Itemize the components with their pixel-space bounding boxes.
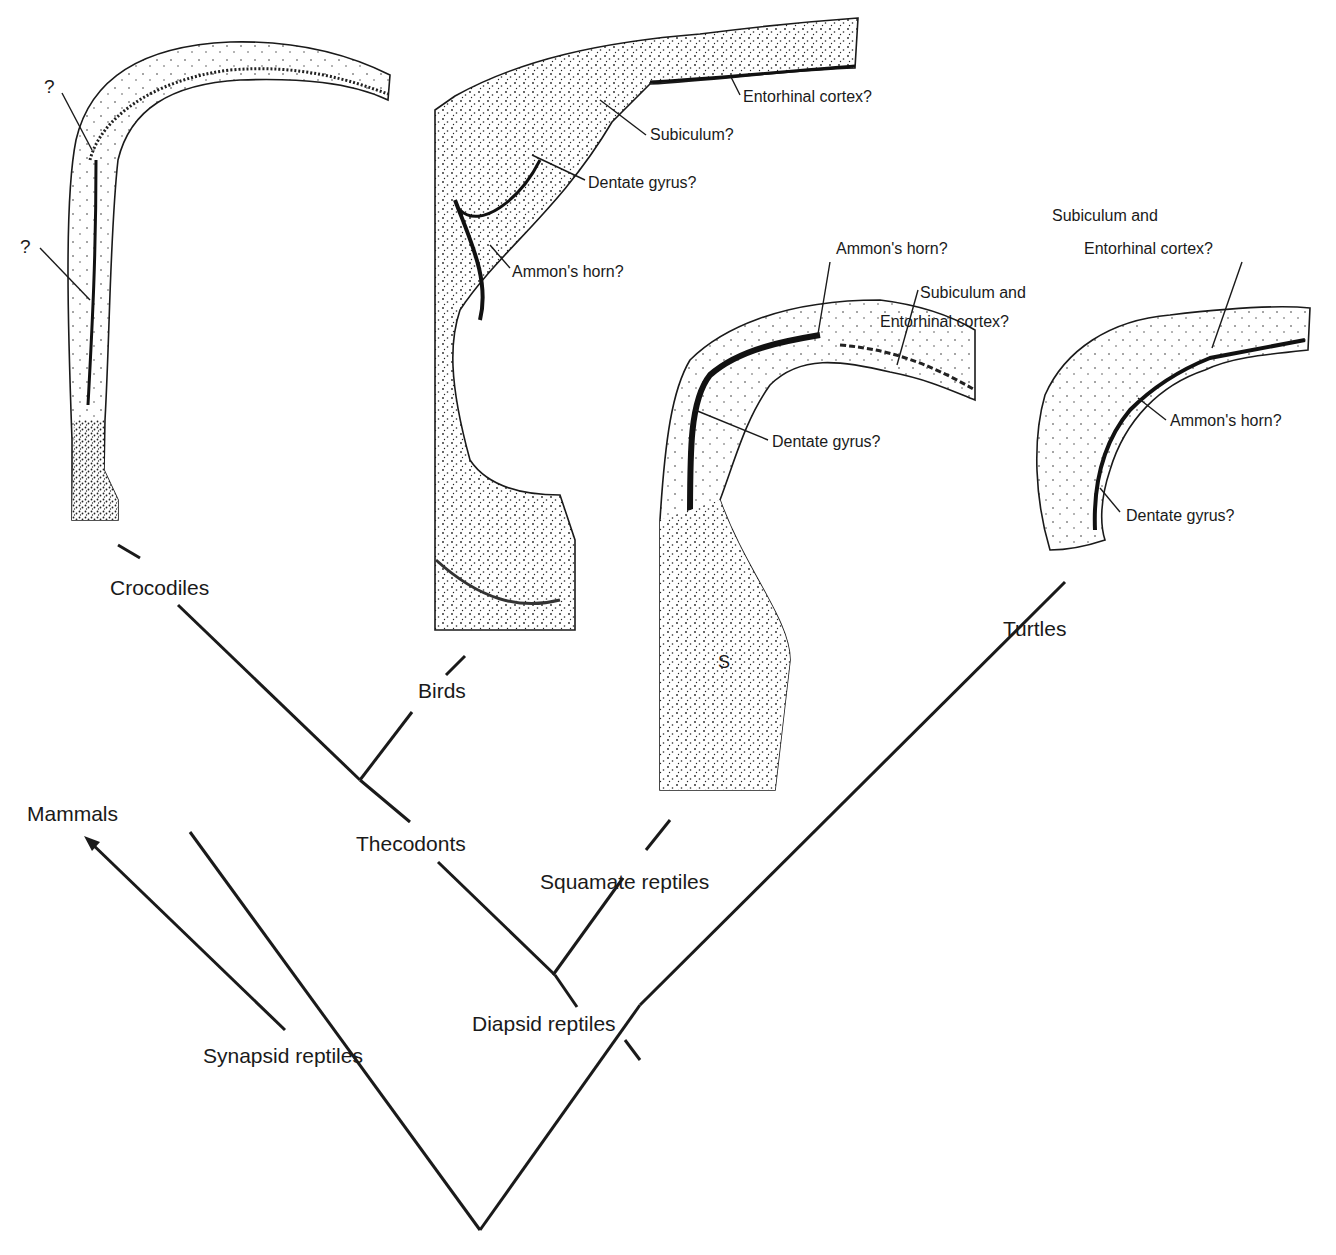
squamate-ammons-horn-label: Ammon's horn? (836, 240, 948, 258)
label-squamate-reptiles: Squamate reptiles (540, 870, 709, 894)
branch-mammals (92, 832, 190, 842)
label-thecodonts: Thecodonts (356, 832, 466, 856)
bird-ammons-horn-label: Ammon's horn? (512, 263, 624, 281)
squamate-dentate-gyrus-label: Dentate gyrus? (772, 433, 881, 451)
crocodile-unknown-label-1: ? (44, 76, 55, 98)
bird-subiculum-label: Subiculum? (650, 126, 734, 144)
label-mammals: Mammals (27, 802, 118, 826)
turtle-entorhinal-cortex-label: Entorhinal cortex? (1084, 240, 1213, 258)
bird-entorhinal-cortex-label: Entorhinal cortex? (743, 88, 872, 106)
bird-dentate-gyrus-label: Dentate gyrus? (588, 174, 697, 192)
squamate-subiculum-label: Subiculum and (920, 284, 1026, 302)
branch-thecodonts (438, 862, 555, 975)
label-turtles: Turtles (1003, 617, 1066, 641)
turtle-dentate-gyrus-label: Dentate gyrus? (1126, 507, 1235, 525)
squamate-entorhinal-cortex-label: Entorhinal cortex? (880, 313, 1009, 331)
label-diapsid-reptiles: Diapsid reptiles (472, 1012, 616, 1036)
squamate-brain-section (660, 262, 975, 790)
squamate-septum-mark: S (718, 652, 730, 673)
branch-synapsid-stem (190, 832, 480, 1230)
branch-diapsid (625, 1040, 640, 1060)
turtle-subiculum-label: Subiculum and (1052, 207, 1158, 225)
crocodile-brain-section (40, 42, 390, 520)
turtle-ammons-horn-label: Ammon's horn? (1170, 412, 1282, 430)
branch-birds (360, 712, 412, 780)
label-crocodiles: Crocodiles (110, 576, 209, 600)
crocodile-unknown-label-2: ? (20, 236, 31, 258)
label-birds: Birds (418, 679, 466, 703)
label-synapsid-reptiles: Synapsid reptiles (203, 1044, 363, 1068)
